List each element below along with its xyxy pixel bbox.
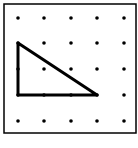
dot-grid bbox=[16, 16, 126, 123]
peg-dot bbox=[95, 67, 99, 71]
peg-dot bbox=[95, 41, 99, 45]
peg-dot bbox=[69, 16, 73, 20]
peg-dot bbox=[16, 119, 20, 123]
peg-dot bbox=[69, 119, 73, 123]
peg-dot bbox=[122, 41, 126, 45]
peg-dot bbox=[122, 93, 126, 97]
peg-dot bbox=[42, 119, 46, 123]
peg-dot bbox=[42, 16, 46, 20]
peg-dot bbox=[122, 119, 126, 123]
peg-dot bbox=[95, 119, 99, 123]
peg-dot bbox=[16, 16, 20, 20]
peg-dot bbox=[69, 41, 73, 45]
right-triangle-shape bbox=[18, 43, 97, 95]
peg-dot bbox=[95, 16, 99, 20]
peg-dot bbox=[122, 16, 126, 20]
peg-dot bbox=[42, 41, 46, 45]
peg-dot bbox=[69, 67, 73, 71]
peg-dot bbox=[42, 67, 46, 71]
peg-dot bbox=[122, 67, 126, 71]
geoboard-diagram bbox=[0, 0, 138, 148]
